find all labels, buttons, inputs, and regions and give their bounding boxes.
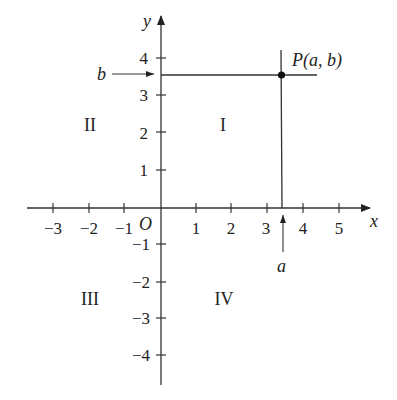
x-axis-label: x <box>369 211 378 231</box>
x-tick-label: 1 <box>192 219 201 238</box>
x-tick-label: 2 <box>227 219 236 238</box>
origin-label: O <box>139 214 152 234</box>
y-axis-label: y <box>141 11 151 31</box>
y-tick-label: −3 <box>132 309 150 328</box>
quadrant-I-label: I <box>220 115 226 135</box>
point-P <box>278 71 285 78</box>
x-tick-label: 4 <box>299 219 308 238</box>
x-tick-label: 3 <box>262 219 271 238</box>
diagram-canvas: −3 −2 −1 1 2 3 4 5 4 3 2 1 −1 −2 −3 −4 x… <box>0 0 397 400</box>
x-tick-labels: −3 −2 −1 1 2 3 4 5 <box>44 219 343 238</box>
y-tick-label: −1 <box>132 235 150 254</box>
b-label: b <box>97 64 106 84</box>
quadrant-IV-label: IV <box>215 289 234 309</box>
y-tick-label: −4 <box>132 346 151 365</box>
y-tick-label: 1 <box>140 161 149 180</box>
coordinate-plane-diagram: −3 −2 −1 1 2 3 4 5 4 3 2 1 −1 −2 −3 −4 x… <box>0 0 397 400</box>
y-tick-labels: 4 3 2 1 −1 −2 −3 −4 <box>132 49 151 365</box>
x-tick-label: −1 <box>115 219 133 238</box>
quadrant-III-label: III <box>81 289 99 309</box>
x-tick-label: −3 <box>44 219 62 238</box>
point-P-label: P(a, b) <box>291 50 342 71</box>
y-tick-label: 4 <box>140 49 149 68</box>
x-tick-label: −2 <box>80 219 98 238</box>
y-tick-label: 3 <box>140 86 149 105</box>
y-tick-label: −2 <box>132 273 150 292</box>
y-tick-label: 2 <box>140 124 149 143</box>
a-label: a <box>277 256 286 276</box>
x-tick-label: 5 <box>335 219 344 238</box>
quadrant-II-label: II <box>84 115 96 135</box>
